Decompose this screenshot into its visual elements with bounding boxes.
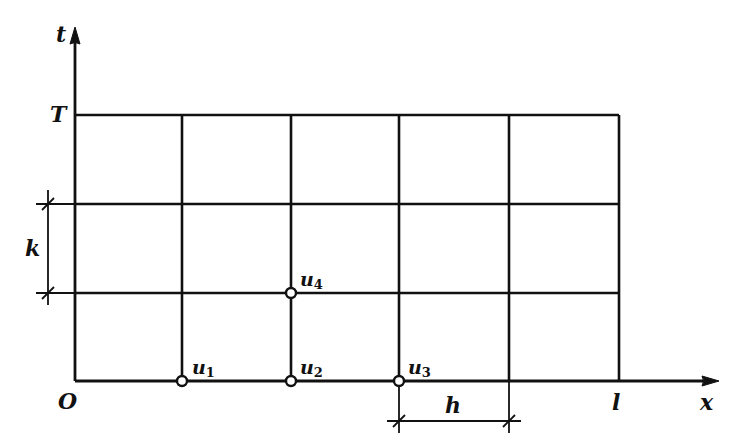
T-label: T [50, 101, 68, 127]
node-u3-subscript: 3 [422, 365, 431, 380]
k-label: k [25, 235, 40, 261]
labels: t T O l x k h u1 u2 u3 u4 [25, 21, 714, 418]
node-u4-letter: u [300, 268, 314, 290]
node-u1-subscript: 1 [206, 365, 215, 380]
node-u2-marker [286, 376, 296, 386]
h-label: h [445, 392, 461, 418]
t-axis-label: t [56, 21, 66, 47]
axes [70, 27, 719, 386]
node-u1-label: u1 [192, 356, 215, 380]
t-axis-arrow-icon [70, 27, 80, 44]
node-u1-letter: u [192, 356, 206, 378]
finite-difference-grid-diagram: t T O l x k h u1 u2 u3 u4 [0, 0, 739, 446]
grid [75, 115, 619, 381]
node-u2-letter: u [300, 356, 314, 378]
node-u3-label: u3 [408, 356, 431, 380]
node-u4-marker [286, 288, 296, 298]
l-label: l [612, 389, 620, 415]
node-u3-marker [394, 376, 404, 386]
node-u4-label: u4 [300, 268, 323, 292]
node-u4-subscript: 4 [314, 277, 323, 292]
x-axis-arrow-icon [702, 376, 719, 386]
node-u2-subscript: 2 [314, 365, 323, 380]
k-dimension [36, 190, 75, 305]
node-u1-marker [177, 376, 187, 386]
node-u3-letter: u [408, 356, 422, 378]
origin-label: O [58, 388, 77, 414]
node-u2-label: u2 [300, 356, 323, 380]
x-axis-label: x [699, 389, 714, 415]
